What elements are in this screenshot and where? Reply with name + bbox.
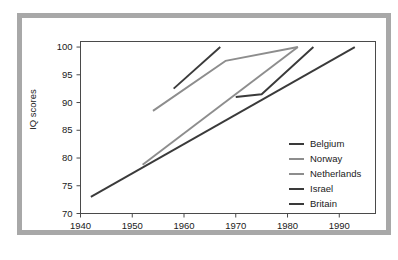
legend-swatch-netherlands <box>289 173 304 175</box>
legend-swatch-belgium <box>289 143 304 145</box>
chart-figure: IQ scores 707580859095100 19401950196019… <box>0 0 398 260</box>
legend-label: Israel <box>310 184 333 194</box>
legend-label: Britain <box>310 199 337 209</box>
legend-label: Norway <box>310 154 342 164</box>
chart-page: IQ scores 707580859095100 19401950196019… <box>0 0 398 260</box>
chart-legend: BelgiumNorwayNetherlandsIsraelBritain <box>289 136 374 212</box>
legend-item-israel[interactable]: Israel <box>289 181 374 196</box>
legend-item-norway[interactable]: Norway <box>289 151 374 166</box>
series-line-israel <box>236 47 314 97</box>
legend-item-britain[interactable]: Britain <box>289 196 374 211</box>
legend-item-netherlands[interactable]: Netherlands <box>289 166 374 181</box>
legend-label: Belgium <box>310 139 344 149</box>
chart-plot-svg <box>0 0 398 260</box>
legend-label: Netherlands <box>310 169 361 179</box>
series-line-belgium <box>174 47 221 89</box>
legend-item-belgium[interactable]: Belgium <box>289 136 374 151</box>
legend-swatch-norway <box>289 158 304 160</box>
legend-swatch-israel <box>289 188 304 190</box>
legend-swatch-britain <box>289 203 304 205</box>
